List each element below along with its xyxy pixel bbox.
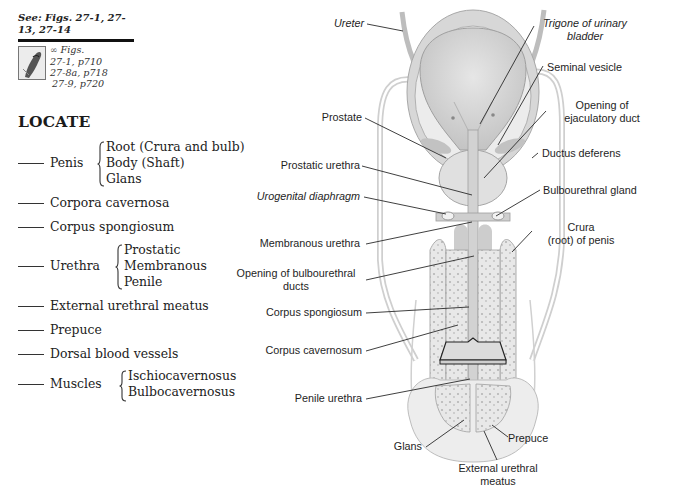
fig-ref-1[interactable]: 27-1, p710 [50,56,108,67]
ureter-left [402,12,414,62]
item-label: External urethral meatus [50,298,209,313]
label-prepuce: Prepuce [508,432,548,445]
checkbox-blank[interactable] [18,306,44,307]
locate-item-muscles: Muscles Ischiocavernosus Bulbocavernosus [18,368,238,402]
label-seminal-vesicle: Seminal vesicle [547,61,622,74]
fig-ref-3[interactable]: 27-9, p720 [50,78,108,89]
label-ureter: Ureter [302,17,364,30]
subitem: Membranous [124,258,207,274]
subitem: Prostatic [124,242,207,258]
locate-item-urethra: Urethra Prostatic Membranous Penile [18,242,238,292]
figs-reference-box: ∞ Figs. 27-1, p710 27-8a, p718 27-9, p72… [18,44,138,94]
label-line: Crura [532,221,630,234]
subitem: Penile [124,274,207,290]
label-prostatic-urethra: Prostatic urethra [250,159,360,172]
locate-item-corpus-spongiosum: Corpus spongiosum [18,219,174,234]
label-line: Opening of bulbourethral [230,267,362,280]
subitem: Glans [106,171,245,187]
locate-item-penis: Penis Root (Crura and bulb) Body (Shaft)… [18,139,238,189]
label-crura-root-of-penis: Crura (root) of penis [532,221,630,247]
divider [18,39,134,42]
label-line: ejaculatory duct [540,112,664,125]
brace-icon [115,244,123,290]
see-figs-reference: See: Figs. 27-1, 27-13, 27-14 [18,12,136,36]
checkbox-blank[interactable] [18,384,44,385]
locate-item-corpora-cavernosa: Corpora cavernosa [18,195,169,210]
brace-icon [97,141,105,187]
label-opening-ejaculatory-duct: Opening of ejaculatory duct [540,99,664,125]
anatomy-thumbnail-icon [18,46,46,80]
label-trigone-urinary-bladder: Trigone of urinary bladder [526,17,644,43]
item-label: Corpora cavernosa [50,195,169,210]
label-penile-urethra: Penile urethra [240,392,362,405]
label-membranous-urethra: Membranous urethra [238,237,360,250]
label-line: (root) of penis [532,234,630,247]
checkbox-blank[interactable] [18,354,44,355]
checkbox-blank[interactable] [18,266,44,267]
locate-panel: See: Figs. 27-1, 27-13, 27-14 ∞ Figs. 27… [0,0,240,496]
item-label: Corpus spongiosum [50,219,174,234]
fig-ref-2[interactable]: 27-8a, p718 [50,67,108,78]
link-icon[interactable]: ∞ [50,45,56,56]
subitem: Ischiocavernosus [128,368,236,384]
subitem: Root (Crura and bulb) [106,139,245,155]
label-urogenital-diaphragm: Urogenital diaphragm [236,190,360,203]
item-label: Muscles [50,376,102,391]
item-label: Prepuce [50,322,102,337]
locate-heading: LOCATE [18,112,90,131]
subitem: Bulbocavernosus [128,384,236,400]
item-label: Penis [50,155,83,170]
checkbox-blank[interactable] [18,163,44,164]
locate-item-external-urethral-meatus: External urethral meatus [18,298,209,313]
item-label: Dorsal blood vessels [50,346,178,361]
checkbox-blank[interactable] [18,227,44,228]
figs-label: Figs. [61,44,85,55]
item-label: Urethra [50,258,100,273]
label-line: meatus [448,475,548,488]
label-line: Trigone of urinary [526,17,644,30]
figs-list: ∞ Figs. 27-1, p710 27-8a, p718 27-9, p72… [50,44,108,89]
label-line: External urethral [448,462,548,475]
label-line: ducts [230,280,362,293]
subitem: Body (Shaft) [106,155,245,171]
label-opening-bulbourethral-ducts: Opening of bulbourethral ducts [230,267,362,293]
label-prostate: Prostate [280,111,362,124]
locate-item-prepuce: Prepuce [18,322,102,337]
checkbox-blank[interactable] [18,203,44,204]
checkbox-blank[interactable] [18,330,44,331]
label-corpus-cavernosum: Corpus cavernosum [240,344,362,357]
locate-item-dorsal-blood-vessels: Dorsal blood vessels [18,346,178,361]
male-reproductive-anatomy-diagram: Ureter Prostate Prostatic urethra Urogen… [240,0,699,496]
label-line: Opening of [540,99,664,112]
label-corpus-spongiosum: Corpus spongiosum [240,306,362,319]
label-ductus-deferens: Ductus deferens [542,147,621,160]
label-line: bladder [526,30,644,43]
label-external-urethral-meatus: External urethral meatus [448,462,548,488]
label-bulbourethral-gland: Bulbourethral gland [543,184,637,197]
label-glans: Glans [360,440,422,453]
brace-icon [119,370,127,402]
